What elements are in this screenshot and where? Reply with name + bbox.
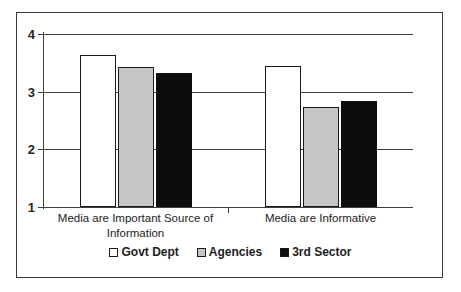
- legend-item-3rd-sector[interactable]: 3rd Sector: [280, 245, 351, 259]
- category-label-0-line-1: Information: [43, 226, 228, 241]
- y-tick-1: [38, 207, 43, 208]
- bar-agencies-group-1: [303, 107, 339, 207]
- bar-3rd-sector-group-1: [341, 101, 377, 207]
- category-label-1-line-0: Media are Informative: [228, 211, 413, 226]
- y-axis-label-3: 3: [28, 85, 35, 98]
- y-axis-label-4: 4: [28, 28, 35, 41]
- legend-swatch-icon-govt-dept: [109, 248, 118, 257]
- plot-area: 4 3 2 1: [43, 34, 413, 207]
- bar-agencies-group-0: [118, 67, 154, 207]
- bar-series-container: [43, 34, 413, 207]
- category-label-1: Media are Informative: [228, 211, 413, 226]
- y-axis-label-1: 1: [28, 201, 35, 214]
- legend-swatch-icon-agencies: [197, 248, 206, 257]
- category-label-0: Media are Important Source of Informatio…: [43, 211, 228, 241]
- legend-item-govt-dept[interactable]: Govt Dept: [109, 245, 178, 259]
- legend-label-govt-dept: Govt Dept: [121, 245, 178, 259]
- chart-figure: 4 3 2 1 Media are Important Source of In…: [16, 12, 443, 278]
- chart-legend: Govt Dept Agencies 3rd Sector: [17, 245, 444, 259]
- bar-govt-dept-group-1: [265, 66, 301, 207]
- y-axis-label-2: 2: [28, 143, 35, 156]
- legend-label-agencies: Agencies: [209, 245, 262, 259]
- bar-3rd-sector-group-0: [156, 73, 192, 207]
- category-label-0-line-0: Media are Important Source of: [43, 211, 228, 226]
- legend-item-agencies[interactable]: Agencies: [197, 245, 262, 259]
- bar-govt-dept-group-0: [80, 55, 116, 207]
- legend-label-3rd-sector: 3rd Sector: [292, 245, 351, 259]
- legend-swatch-icon-3rd-sector: [280, 248, 289, 257]
